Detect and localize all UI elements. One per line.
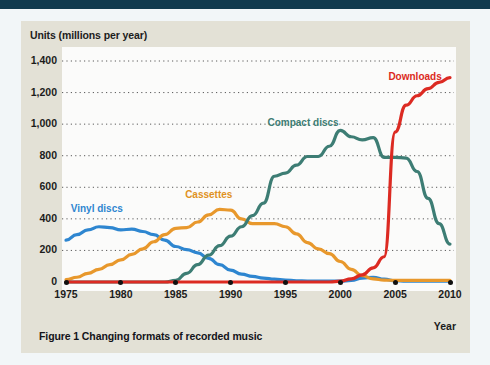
- x-axis-title: Year: [434, 320, 456, 332]
- series-label-downloads: Downloads: [388, 71, 441, 82]
- x-tick-label: 2005: [375, 288, 415, 300]
- page-top-bar: [0, 0, 490, 9]
- y-axis-title: Units (millions per year): [30, 29, 147, 41]
- gridlines-group: [62, 61, 454, 282]
- x-axis-marker-dot: [393, 280, 398, 285]
- x-tick-label: 1995: [265, 288, 305, 300]
- x-tick-label: 2000: [320, 288, 360, 300]
- x-axis-marker-dot: [173, 280, 178, 285]
- y-tick-label: 1,200: [21, 86, 57, 98]
- x-tick-label: 2010: [430, 288, 470, 300]
- series-label-compact-discs: Compact discs: [267, 117, 338, 128]
- y-tick-label: 1,400: [21, 54, 57, 66]
- figure-caption: Figure 1 Changing formats of recorded mu…: [39, 330, 262, 342]
- y-tick-label: 400: [21, 212, 57, 224]
- x-tick-label: 1990: [211, 288, 251, 300]
- x-axis-marker-dot: [228, 280, 233, 285]
- y-tick-label: 200: [21, 243, 57, 255]
- series-group: [66, 78, 450, 282]
- y-tick-label: 800: [21, 149, 57, 161]
- x-axis-marker-dot: [64, 280, 69, 285]
- series-label-cassettes: Cassettes: [185, 189, 232, 200]
- x-tick-label: 1980: [101, 288, 141, 300]
- y-tick-label: 1,000: [21, 117, 57, 129]
- y-tick-label: 0: [21, 275, 57, 287]
- series-label-vinyl-discs: Vinyl discs: [71, 203, 123, 214]
- x-axis-marker-dot: [338, 280, 343, 285]
- figure-page: Units (millions per year) 1,4001,2001,00…: [0, 0, 490, 365]
- x-axis-marker-dot: [283, 280, 288, 285]
- y-tick-label: 600: [21, 180, 57, 192]
- figure-card: Units (millions per year) 1,4001,2001,00…: [21, 21, 470, 353]
- line-chart-svg: [62, 47, 456, 291]
- series-line-downloads: [66, 78, 450, 282]
- x-tick-label: 1985: [156, 288, 196, 300]
- series-line-vinyl-discs: [66, 227, 450, 281]
- x-axis-marker-dot: [118, 280, 123, 285]
- plot-area: [62, 47, 456, 291]
- x-tick-label: 1975: [46, 288, 86, 300]
- x-axis-marker-dot: [448, 280, 453, 285]
- series-line-cassettes: [66, 209, 450, 280]
